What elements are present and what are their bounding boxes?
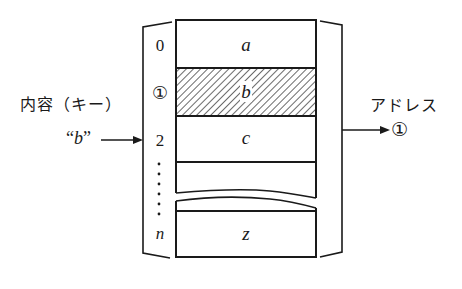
- open-quote: “: [66, 128, 74, 148]
- output-address-value: ①: [391, 120, 408, 139]
- cell-b-text: b: [240, 81, 252, 102]
- index-label-0: 0: [150, 37, 170, 54]
- input-label: 内容（キー）: [20, 97, 122, 113]
- index-label-1-circled: ①: [150, 84, 170, 102]
- index-label-2: 2: [150, 132, 170, 149]
- close-quote: ”: [83, 128, 91, 148]
- output-arrow: [342, 126, 390, 134]
- cell-z: z: [226, 224, 266, 243]
- cell-c: c: [226, 128, 266, 147]
- cell-b: b: [226, 82, 266, 101]
- right-bracket: [320, 21, 342, 257]
- index-label-n: n: [150, 225, 170, 242]
- cell-a: a: [226, 35, 266, 54]
- input-arrow: [101, 136, 143, 144]
- input-key-value: “b”: [66, 129, 91, 147]
- key-b: b: [74, 128, 83, 148]
- ellipsis-dots: [158, 163, 161, 216]
- output-label: アドレス: [370, 98, 438, 114]
